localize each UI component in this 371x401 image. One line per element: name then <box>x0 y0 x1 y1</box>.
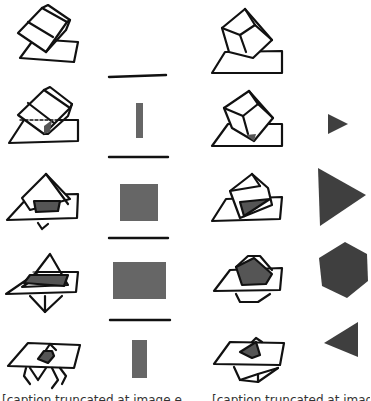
cube-slice-1 <box>212 9 282 73</box>
section-small-triangle <box>328 114 348 134</box>
section-large-triangle <box>318 168 366 226</box>
section-shapes-right <box>318 114 368 357</box>
caption-left: [caption truncated at image edge — unrea… <box>2 392 182 401</box>
separator-line <box>109 75 166 77</box>
block-slice-2 <box>9 87 78 143</box>
cube-slice-5 <box>214 338 284 382</box>
section-inverted-triangle <box>324 322 358 357</box>
block-slice-4 <box>6 254 78 312</box>
cube-slice-3 <box>212 174 282 221</box>
cube-slice-2 <box>212 91 282 146</box>
section-square <box>120 184 158 221</box>
block-slice-3 <box>7 174 78 229</box>
section-hexagon <box>319 242 368 298</box>
figure-canvas <box>0 0 371 401</box>
section-shapes-left <box>113 103 166 378</box>
section-wide-rectangle <box>113 262 166 299</box>
block-slice-5 <box>8 343 80 388</box>
block-slice-1 <box>18 5 78 62</box>
cube-slice-4 <box>214 256 282 302</box>
caption-right: [caption truncated at image edge — unrea… <box>212 392 370 401</box>
section-thin-rectangle <box>136 103 143 138</box>
section-narrow-rectangle <box>132 340 147 378</box>
